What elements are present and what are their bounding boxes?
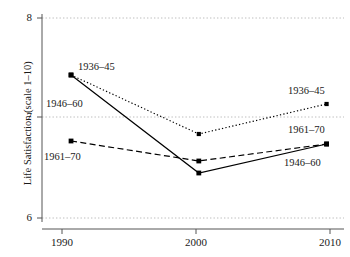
series-label-1946-60-left: 1946–60 (46, 99, 83, 110)
y-axis-ticks (37, 18, 42, 218)
series-label-1961-70-left: 1961–70 (44, 152, 81, 163)
life-satisfaction-line-chart: Life Satisfaction (scale 1–10) 8 7 6 199… (0, 0, 350, 257)
x-axis-ticks (62, 229, 330, 234)
x-tick-label-2010: 2010 (307, 237, 350, 248)
y-axis-title: Life Satisfaction (scale 1–10) (23, 37, 34, 209)
axis-spines (42, 14, 344, 229)
series-label-1961-70-right: 1961–70 (288, 125, 325, 136)
x-tick-label-1990: 1990 (39, 237, 85, 248)
series-label-1946-60-right: 1946–60 (284, 158, 321, 169)
x-tick-label-2000: 2000 (173, 237, 219, 248)
series-label-1936-45-right: 1936–45 (288, 86, 325, 97)
series-label-1936-45-left: 1936–45 (78, 62, 115, 73)
gridlines (42, 18, 344, 218)
y-tick-label-8: 8 (10, 12, 32, 23)
y-tick-label-6: 6 (10, 212, 32, 223)
y-tick-label-7: 7 (10, 111, 32, 122)
